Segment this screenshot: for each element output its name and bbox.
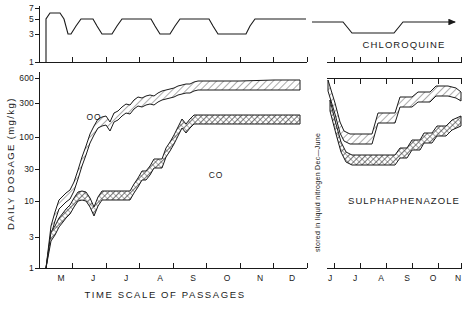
series-band-oo-left — [46, 80, 300, 268]
main-left-y-ticks — [35, 78, 39, 268]
xtick-left-J1: J — [91, 273, 95, 283]
xtick-left-O: O — [224, 273, 231, 283]
ytick-30: 30 — [24, 164, 34, 174]
top-left-passage-curve — [46, 13, 306, 62]
ytick-300: 300 — [19, 98, 34, 108]
main-right-top-ticks — [327, 78, 462, 84]
xtick-right-A: A — [378, 273, 384, 283]
xtick-left-D: D — [289, 273, 295, 283]
xtick-left-A: A — [157, 273, 163, 283]
ytick-100: 100 — [19, 132, 34, 142]
xtick-left-N: N — [257, 273, 263, 283]
xtick-right-N: N — [455, 273, 461, 283]
top-right-x-ticks — [334, 57, 461, 62]
main-left-x-ticks — [72, 263, 307, 268]
xtick-left-J2: J — [124, 273, 128, 283]
storage-note: stored in liquid nitrogen Dec—June — [314, 133, 322, 252]
ytick-600: 600 — [19, 73, 34, 83]
series-label-co-left: CO — [209, 170, 223, 180]
y-axis-title: DAILY DOSAGE (mg/kg) — [5, 97, 16, 230]
scientific-figure: 7 5 3 1 — [0, 0, 465, 314]
top-right-step-panel: CHLOROQUINE — [312, 22, 462, 62]
xtick-right-J1: J — [328, 273, 332, 283]
top-left-ytick-3: 3 — [29, 29, 34, 39]
xtick-right-S: S — [404, 273, 410, 283]
xtick-left-S: S — [190, 273, 196, 283]
main-right-panel: J J A S O N stored in liquid nitrogen De… — [314, 78, 462, 283]
main-left-panel: 600 300 100 30 10 3 1 DAILY DOSAGE (mg/k… — [5, 72, 307, 283]
figure-root: 7 5 3 1 — [0, 0, 465, 314]
top-left-ytick-1: 1 — [29, 57, 34, 67]
xtick-right-O: O — [430, 273, 437, 283]
top-right-passage-curve — [312, 22, 455, 33]
ytick-10: 10 — [24, 196, 34, 206]
main-right-x-ticks — [334, 263, 461, 268]
chloroquine-label: CHLOROQUINE — [363, 39, 446, 50]
top-left-step-panel: 7 5 3 1 — [29, 3, 307, 67]
xtick-right-J2: J — [353, 273, 357, 283]
ytick-1: 1 — [29, 263, 34, 273]
ytick-3: 3 — [29, 232, 34, 242]
top-left-ytick-7: 7 — [29, 3, 34, 13]
series-label-oo-left: OO — [87, 112, 102, 122]
top-left-ytick-5: 5 — [29, 14, 34, 24]
series-band-co-left — [46, 115, 300, 268]
sulphaphenazole-label: SULPHAPHENAZOLE — [348, 195, 460, 206]
top-left-x-ticks — [72, 57, 307, 62]
xtick-left-M: M — [57, 273, 64, 283]
x-axis-title: TIME SCALE OF PASSAGES — [84, 289, 245, 300]
